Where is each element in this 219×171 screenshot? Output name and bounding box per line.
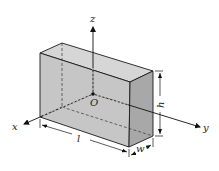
box-diagram: z x y O l w h [0, 0, 219, 171]
origin-dot [91, 92, 95, 96]
origin-label: O [90, 97, 98, 108]
y-axis-label: y [202, 122, 209, 133]
height-label: h [155, 102, 166, 108]
length-label: l [77, 133, 80, 144]
z-axis-label: z [89, 13, 96, 24]
x-axis-label: x [12, 121, 18, 132]
width-label: w [136, 143, 145, 154]
